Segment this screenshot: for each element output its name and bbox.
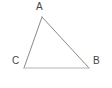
vertex-label-b: B [93, 56, 100, 66]
triangle-side-ab [42, 17, 89, 68]
vertex-label-a: A [36, 2, 43, 12]
vertex-label-c: C [12, 56, 19, 66]
triangle-side-ca [24, 17, 42, 68]
triangle-figure [0, 0, 112, 88]
triangle-diagram-canvas: A C B [0, 0, 112, 88]
